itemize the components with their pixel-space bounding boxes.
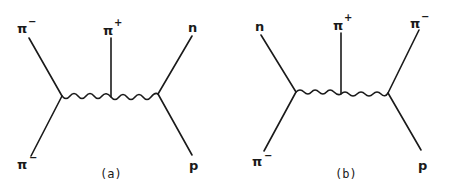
label-top-middle: π: [103, 23, 113, 38]
label-top-right-sup: −: [421, 11, 429, 22]
caption-a: (a): [100, 167, 122, 181]
label-top-middle-sup: +: [114, 17, 122, 28]
label-top-left-sup: −: [28, 16, 36, 27]
label-bottom-left: π: [252, 154, 262, 169]
line-bottom-left: [31, 96, 62, 156]
label-top-middle: π: [333, 18, 343, 33]
label-top-left: π: [17, 21, 27, 36]
line-bottom-left: [264, 92, 296, 151]
line-bottom-right: [158, 94, 192, 155]
diagram-a: π − π + n π − p (a): [17, 16, 198, 181]
wavy-propagator-left: [62, 94, 111, 99]
label-top-middle-sup: +: [344, 12, 352, 23]
label-bottom-left-sup: −: [29, 152, 37, 163]
feynman-diagrams: π − π + n π − p (a) n π + π − π − p (b): [0, 0, 449, 188]
label-bottom-left-sup: −: [264, 150, 272, 161]
label-bottom-left: π: [17, 157, 27, 172]
line-top-left: [261, 35, 296, 92]
caption-b: (b): [335, 167, 357, 181]
line-top-right: [158, 36, 192, 94]
label-top-right: n: [188, 20, 197, 35]
wavy-propagator-right: [341, 92, 388, 96]
line-top-right: [388, 30, 419, 93]
label-top-right: π: [410, 16, 420, 31]
line-top-left: [29, 38, 62, 96]
label-bottom-right: p: [418, 158, 427, 173]
wavy-propagator-right: [111, 93, 158, 99]
line-bottom-right: [388, 93, 421, 150]
label-bottom-right: p: [189, 158, 198, 173]
wavy-propagator-left: [296, 90, 341, 95]
label-top-left: n: [255, 19, 264, 34]
diagram-b: n π + π − π − p (b): [252, 11, 429, 181]
